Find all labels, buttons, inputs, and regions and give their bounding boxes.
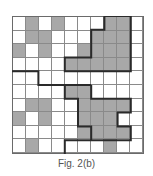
shaded-cell (104, 17, 117, 31)
empty-cell (104, 85, 117, 99)
empty-cell (26, 85, 39, 99)
shaded-cell (26, 99, 39, 113)
empty-cell (26, 71, 39, 85)
empty-cell (65, 112, 78, 126)
empty-cell (52, 44, 65, 58)
shaded-cell (104, 58, 117, 72)
empty-cell (91, 17, 104, 31)
empty-cell (91, 85, 104, 99)
shaded-cell (78, 85, 91, 99)
shaded-cell (52, 17, 65, 31)
empty-cell (26, 126, 39, 140)
empty-cell (91, 71, 104, 85)
empty-cell (91, 139, 104, 153)
empty-cell (39, 126, 52, 140)
empty-cell (78, 17, 91, 31)
empty-cell (130, 31, 143, 45)
shaded-cell (39, 44, 52, 58)
empty-cell (26, 112, 39, 126)
shaded-cell (13, 44, 26, 58)
shaded-cell (104, 99, 117, 113)
empty-cell (130, 126, 143, 140)
empty-cell (65, 126, 78, 140)
shaded-cell (91, 112, 104, 126)
shaded-cell (78, 126, 91, 140)
empty-cell (26, 58, 39, 72)
shaded-cell (104, 31, 117, 45)
shaded-cell (117, 44, 130, 58)
shaded-cell (91, 126, 104, 140)
empty-cell (13, 139, 26, 153)
empty-cell (65, 17, 78, 31)
empty-cell (13, 58, 26, 72)
shaded-cell (104, 139, 117, 153)
empty-cell (13, 85, 26, 99)
shaded-cell (65, 85, 78, 99)
shaded-cell (117, 99, 130, 113)
shaded-cell (78, 44, 91, 58)
shaded-cell (26, 139, 39, 153)
shaded-cell (78, 112, 91, 126)
shaded-cell (104, 126, 117, 140)
empty-cell (104, 71, 117, 85)
empty-cell (39, 71, 52, 85)
empty-cell (78, 139, 91, 153)
empty-cell (13, 99, 26, 113)
empty-cell (39, 17, 52, 31)
shaded-cell (117, 17, 130, 31)
shaded-cell (26, 17, 39, 31)
empty-cell (78, 31, 91, 45)
empty-cell (65, 139, 78, 153)
shaded-cell (104, 112, 117, 126)
empty-cell (52, 112, 65, 126)
shaded-cell (39, 99, 52, 113)
figure-caption: Fig. 2(b) (0, 158, 153, 169)
shaded-cell (117, 58, 130, 72)
empty-cell (117, 71, 130, 85)
empty-cell (65, 44, 78, 58)
empty-cell (52, 85, 65, 99)
empty-cell (117, 112, 130, 126)
shaded-cell (117, 31, 130, 45)
empty-cell (52, 99, 65, 113)
empty-cell (130, 71, 143, 85)
shaded-cell (91, 58, 104, 72)
empty-cell (39, 139, 52, 153)
empty-cell (52, 31, 65, 45)
empty-cell (65, 31, 78, 45)
empty-cell (130, 112, 143, 126)
shaded-cell (26, 31, 39, 45)
empty-cell (52, 126, 65, 140)
empty-cell (78, 71, 91, 85)
empty-cell (130, 139, 143, 153)
empty-cell (65, 71, 78, 85)
empty-cell (130, 85, 143, 99)
shaded-cell (91, 99, 104, 113)
grid-figure (12, 16, 144, 154)
empty-cell (39, 58, 52, 72)
empty-cell (39, 85, 52, 99)
shaded-cell (39, 31, 52, 45)
empty-cell (130, 44, 143, 58)
empty-cell (52, 71, 65, 85)
shaded-cell (78, 99, 91, 113)
empty-cell (117, 139, 130, 153)
empty-cell (52, 58, 65, 72)
shaded-cell (104, 44, 117, 58)
empty-cell (130, 17, 143, 31)
empty-cell (52, 139, 65, 153)
empty-cell (26, 44, 39, 58)
empty-cell (130, 58, 143, 72)
empty-cell (13, 71, 26, 85)
empty-cell (13, 126, 26, 140)
shaded-grid (12, 16, 144, 154)
shaded-cell (78, 58, 91, 72)
shaded-cell (65, 58, 78, 72)
empty-cell (13, 31, 26, 45)
empty-cell (13, 17, 26, 31)
empty-cell (65, 99, 78, 113)
shaded-cell (91, 31, 104, 45)
shaded-cell (13, 112, 26, 126)
shaded-cell (117, 126, 130, 140)
shaded-cell (39, 112, 52, 126)
